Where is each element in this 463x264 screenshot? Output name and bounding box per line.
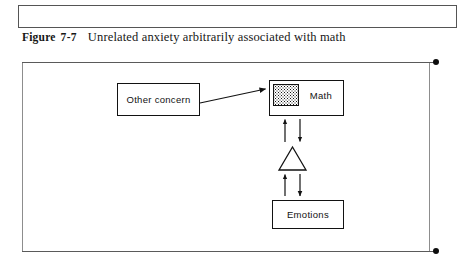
node-math: Math <box>269 80 344 116</box>
caption-text: Unrelated anxiety arbitrarily associated… <box>88 30 346 45</box>
node-other-concern: Other concern <box>117 83 200 116</box>
node-emotions: Emotions <box>272 200 344 229</box>
node-other-concern-label: Other concern <box>126 94 190 105</box>
node-math-label: Math <box>310 90 332 101</box>
figure-page: Figure 7-7 Unrelated anxiety arbitrarily… <box>0 0 463 264</box>
empty-content-box <box>18 5 457 28</box>
node-emotions-label: Emotions <box>287 209 329 220</box>
top-right-dot-marker <box>433 59 439 65</box>
figure-bottom-rule <box>22 251 434 252</box>
bottom-right-dot-marker <box>433 248 439 254</box>
figure-caption: Figure 7-7 Unrelated anxiety arbitrarily… <box>22 30 346 47</box>
caption-label: Figure <box>22 31 56 43</box>
stippled-square-marker <box>273 84 299 106</box>
caption-figure-number: 7-7 <box>61 31 77 43</box>
figure-top-rule <box>22 62 434 63</box>
figure-frame <box>22 62 430 252</box>
